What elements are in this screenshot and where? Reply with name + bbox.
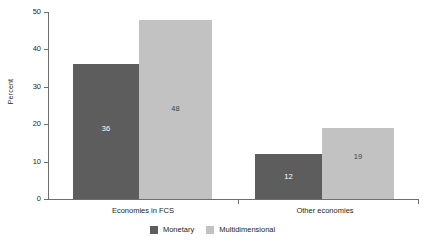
x-tick-separator [238, 200, 239, 204]
y-tick-40: 40 [0, 49, 48, 50]
y-tick-label-50: 50 [33, 7, 41, 16]
y-tick-30: 30 [0, 87, 48, 88]
y-tick-0: 0 [0, 199, 48, 200]
bar-value-other-multidimensional: 19 [322, 152, 394, 161]
legend-label-monetary: Monetary [163, 225, 194, 235]
y-tick-10: 10 [0, 162, 48, 163]
bar-other-multidimensional[interactable]: 19 [322, 128, 394, 199]
y-tick-50: 50 [0, 12, 48, 13]
x-tick-end [418, 200, 419, 204]
x-axis-line [48, 199, 419, 200]
legend-item-multidimensional[interactable]: Multidimensional [206, 225, 275, 235]
y-tick-20: 20 [0, 124, 48, 125]
bar-value-fcs-monetary: 36 [73, 124, 139, 133]
legend: Monetary Multidimensional [0, 225, 425, 235]
y-tick-label-10: 10 [33, 157, 41, 166]
legend-swatch-multidimensional-icon [206, 226, 214, 234]
bar-value-fcs-multidimensional: 48 [139, 104, 212, 113]
bar-fcs-monetary[interactable]: 36 [73, 64, 139, 199]
x-axis-label-economies-in-fcs: Economies in FCS [73, 206, 213, 216]
legend-swatch-monetary-icon [150, 226, 158, 234]
x-axis-label-other-economies: Other economies [255, 206, 395, 216]
y-tick-label-40: 40 [33, 44, 41, 53]
y-tick-label-0: 0 [37, 194, 41, 203]
legend-label-multidimensional: Multidimensional [219, 225, 275, 235]
bar-value-other-monetary: 12 [255, 172, 322, 181]
legend-item-monetary[interactable]: Monetary [150, 225, 194, 235]
y-tick-label-30: 30 [33, 82, 41, 91]
bar-chart: Percent 50 40 30 20 10 0 36 48 12 [0, 0, 425, 244]
y-tick-label-20: 20 [33, 119, 41, 128]
plot-area: 36 48 12 19 [48, 12, 419, 199]
bar-other-monetary[interactable]: 12 [255, 154, 322, 199]
bar-fcs-multidimensional[interactable]: 48 [139, 20, 212, 200]
y-axis-title: Percent [7, 62, 14, 122]
